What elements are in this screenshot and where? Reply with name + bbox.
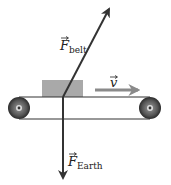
f-earth-label: F Earth: [67, 153, 103, 172]
box: [42, 80, 83, 97]
right-roller: [139, 97, 161, 119]
velocity-label: v: [110, 75, 118, 90]
svg-text:belt: belt: [69, 45, 87, 55]
f-belt-label: F belt: [59, 37, 87, 56]
left-roller: [8, 97, 30, 119]
conveyor-free-body-diagram: F belt v F Earth: [0, 0, 171, 185]
svg-text:Earth: Earth: [77, 161, 103, 171]
conveyor-belt: [19, 97, 150, 119]
